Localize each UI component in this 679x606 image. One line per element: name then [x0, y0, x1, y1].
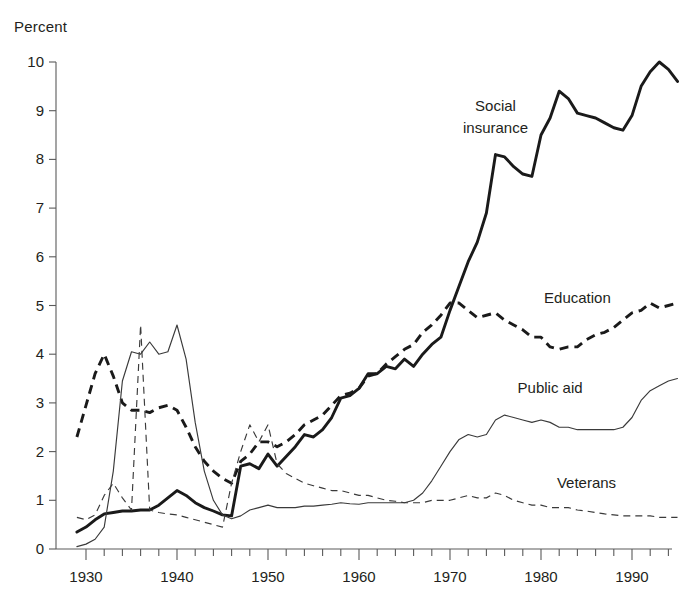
y-tick-label: 5 [36, 297, 44, 314]
y-tick-label: 9 [36, 102, 44, 119]
series-line-education [77, 303, 678, 483]
x-tick-label: 1940 [160, 568, 193, 585]
x-tick-label: 1970 [433, 568, 466, 585]
chart-container: Percent 01234567891019301940195019601970… [0, 0, 679, 606]
x-tick-label: 1950 [251, 568, 284, 585]
y-tick-label: 4 [36, 345, 44, 362]
series-label-education: Education [544, 289, 611, 306]
x-tick-label: 1960 [342, 568, 375, 585]
line-chart-plot: 0123456789101930194019501960197019801990… [0, 0, 679, 606]
series-label-veterans: Veterans [557, 474, 616, 491]
x-tick-label: 1930 [69, 568, 102, 585]
x-tick-label: 1980 [524, 568, 557, 585]
y-tick-label: 7 [36, 199, 44, 216]
y-tick-label: 3 [36, 394, 44, 411]
series-label-public-aid: Public aid [518, 379, 583, 396]
y-tick-label: 0 [36, 540, 44, 557]
y-tick-label: 10 [27, 53, 44, 70]
y-tick-label: 1 [36, 491, 44, 508]
series-line-public-aid [77, 325, 678, 547]
y-tick-label: 8 [36, 150, 44, 167]
x-tick-label: 1990 [615, 568, 648, 585]
y-tick-label: 2 [36, 443, 44, 460]
series-label-social-insurance: insurance [463, 119, 528, 136]
y-tick-label: 6 [36, 248, 44, 265]
series-label-social-insurance: Social [475, 97, 516, 114]
